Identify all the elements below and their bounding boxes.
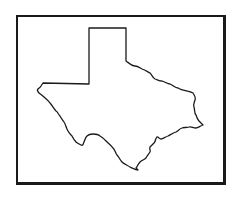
texas-outline-icon bbox=[0, 0, 240, 199]
illustration: Texas state outline bbox=[0, 0, 240, 199]
